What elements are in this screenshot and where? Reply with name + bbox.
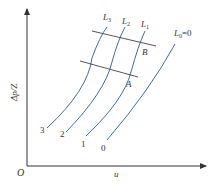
curve-2-top-label: L2 <box>121 16 130 27</box>
curve-2-end-label: 2 <box>60 129 65 139</box>
curve-0-top-label: L0=0 <box>173 28 192 39</box>
curve-0 <box>107 44 175 140</box>
curve-3 <box>47 27 107 128</box>
x-axis-label: u <box>114 169 119 179</box>
curve-3-end-label: 3 <box>40 125 45 135</box>
cross-line-lower <box>80 61 138 77</box>
curve-1-end-label: 1 <box>81 139 86 149</box>
curve-1-top-label: L1 <box>140 19 149 30</box>
curve-3-top-label: L3 <box>102 12 111 23</box>
point-a-label: A <box>125 79 132 89</box>
origin-label: O <box>17 167 24 178</box>
diagram-canvas: O u Δp/Z 3 2 1 0 L3 L2 L1 L0=0 B A <box>0 0 212 189</box>
curve-1 <box>86 31 145 136</box>
y-axis-label: Δp/Z <box>9 83 19 102</box>
curve-0-end-label: 0 <box>101 143 106 153</box>
point-b-label: B <box>142 47 148 57</box>
curve-2 <box>66 27 125 132</box>
cross-line-upper <box>92 31 156 46</box>
